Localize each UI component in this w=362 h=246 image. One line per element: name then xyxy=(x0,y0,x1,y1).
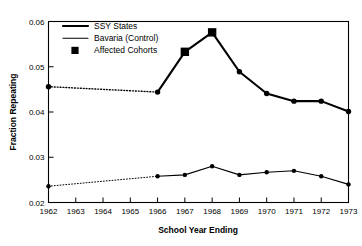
y-tick-label: 0.04 xyxy=(29,108,45,117)
data-point xyxy=(264,91,269,96)
data-point xyxy=(237,173,241,177)
y-axis-label: Fraction Repeating xyxy=(8,74,18,151)
x-tick-label: 1968 xyxy=(203,207,221,216)
data-point xyxy=(292,169,296,173)
data-point xyxy=(46,184,50,188)
data-point xyxy=(346,109,351,114)
x-tick-label: 1973 xyxy=(340,207,358,216)
x-tick-label: 1971 xyxy=(285,207,303,216)
data-point xyxy=(210,164,214,168)
data-point xyxy=(291,98,296,103)
x-tick-label: 1972 xyxy=(312,207,330,216)
x-tick-label: 1966 xyxy=(149,207,167,216)
legend-label: Bavaria (Control) xyxy=(94,33,158,43)
data-point xyxy=(319,98,324,103)
data-point xyxy=(346,182,350,186)
x-tick-label: 1969 xyxy=(231,207,249,216)
data-point xyxy=(183,173,187,177)
x-axis-label: School Year Ending xyxy=(158,225,238,235)
fraction-repeating-line-chart: 0.020.030.040.050.06 1962196319641965196… xyxy=(0,0,362,246)
data-point xyxy=(155,174,159,178)
y-tick-label: 0.06 xyxy=(29,18,45,27)
chart-figure: 0.020.030.040.050.06 1962196319641965196… xyxy=(0,0,362,246)
x-tick-label: 1970 xyxy=(258,207,276,216)
data-point-affected-cohort xyxy=(181,48,189,56)
legend-label: SSY States xyxy=(94,21,137,31)
x-tick-label: 1965 xyxy=(121,207,139,216)
x-tick-label: 1962 xyxy=(40,207,58,216)
y-tick-label: 0.05 xyxy=(29,63,45,72)
y-tick-label: 0.03 xyxy=(29,153,45,162)
data-point xyxy=(155,89,160,94)
x-tick-label: 1967 xyxy=(176,207,194,216)
data-point xyxy=(264,170,268,174)
data-point xyxy=(319,174,323,178)
legend-label: Affected Cohorts xyxy=(94,45,157,55)
data-point xyxy=(237,69,242,74)
data-point xyxy=(46,84,51,89)
x-tick-label: 1964 xyxy=(94,207,112,216)
legend-filled-square-icon xyxy=(71,47,78,54)
x-tick-label: 1963 xyxy=(67,207,85,216)
data-point-affected-cohort xyxy=(208,28,216,36)
